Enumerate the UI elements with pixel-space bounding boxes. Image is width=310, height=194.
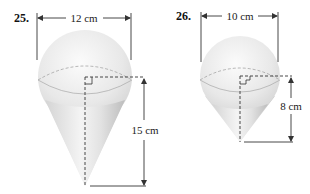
height-label: 15 cm bbox=[131, 124, 159, 136]
diameter-label: 10 cm bbox=[226, 10, 254, 22]
diagram-canvas: 25. 12 cm 15 cm 26. bbox=[0, 0, 310, 194]
figure-number: 26. bbox=[176, 9, 191, 23]
figure-number: 25. bbox=[14, 11, 29, 25]
diameter-label: 12 cm bbox=[70, 12, 98, 24]
figure-25: 25. 12 cm 15 cm bbox=[14, 11, 159, 186]
height-label: 8 cm bbox=[280, 100, 302, 112]
figure-26: 26. 10 cm 8 cm bbox=[176, 9, 302, 142]
